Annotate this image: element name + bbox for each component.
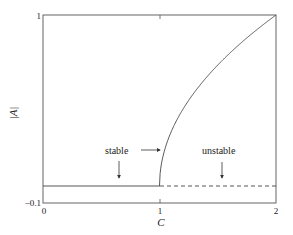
unstable-label: unstable [202,145,236,156]
y-axis-label: |A| [7,107,19,120]
y-tick-label-top: 1 [37,11,42,21]
x-tick-label-2: 2 [274,206,279,216]
bifurcation-chart: stable unstable 1 −0.1 0 1 2 C |A| [0,0,293,235]
y-tick-label-bottom: −0.1 [25,198,41,208]
x-axis-label: C [157,216,165,228]
stable-label: stable [105,145,129,156]
x-tick-label-1: 1 [158,206,163,216]
x-tick-label-0: 0 [42,206,47,216]
bifurcating-branch [160,15,277,186]
